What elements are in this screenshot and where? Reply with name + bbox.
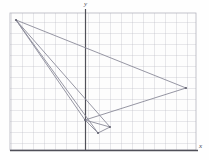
vertex-point-c xyxy=(84,119,86,121)
vertex-point-e xyxy=(97,132,99,134)
vertex-point-b xyxy=(185,87,187,89)
grid-lines xyxy=(10,13,196,150)
x-axis-label: x xyxy=(199,143,202,150)
coordinate-plot-svg xyxy=(0,0,209,160)
plot-canvas: y x xyxy=(0,0,209,160)
vertex-point-a xyxy=(15,19,17,21)
y-axis-label: y xyxy=(84,1,87,8)
vertex-point-d xyxy=(109,126,111,128)
